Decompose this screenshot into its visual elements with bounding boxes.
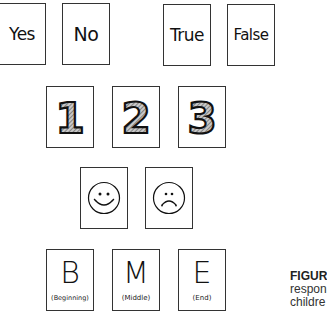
sad-face-icon: [151, 180, 187, 216]
card-letter-e: E (End): [178, 249, 226, 311]
card-no: No: [62, 3, 110, 65]
happy-face-icon: [86, 180, 122, 216]
card-true: True: [163, 4, 211, 66]
card-true-label: True: [170, 25, 204, 45]
card-yes: Yes: [0, 3, 46, 65]
svg-text:1: 1: [55, 95, 84, 139]
digit-2-icon: 2: [116, 95, 156, 139]
svg-text:3: 3: [187, 95, 216, 139]
card-no-label: No: [74, 23, 99, 45]
card-happy-face: [80, 167, 128, 229]
svg-text:2: 2: [121, 95, 150, 139]
figure-caption: FIGUR respon childre: [290, 270, 327, 309]
card-letter-m-sub: (Middle): [122, 294, 151, 302]
card-number-1: 1: [46, 86, 94, 148]
card-letter-e-sub: (End): [193, 294, 212, 302]
card-letter-b: B (Beginning): [46, 249, 94, 311]
card-sad-face: [145, 167, 193, 229]
digit-3-icon: 3: [182, 95, 222, 139]
card-false-label: False: [233, 26, 268, 44]
digit-1-icon: 1: [50, 95, 90, 139]
card-number-3: 3: [178, 86, 226, 148]
card-letter-e-main: E: [193, 258, 212, 288]
card-letter-b-sub: (Beginning): [51, 294, 89, 302]
figure-caption-line-3: childre: [290, 296, 327, 309]
figure-caption-label: FIGUR: [290, 269, 327, 283]
card-letter-b-main: B: [60, 258, 80, 288]
card-letter-m: M (Middle): [112, 249, 160, 311]
card-yes-label: Yes: [9, 24, 35, 44]
card-false: False: [227, 4, 275, 66]
card-letter-m-main: M: [123, 258, 149, 288]
card-number-2: 2: [112, 86, 160, 148]
